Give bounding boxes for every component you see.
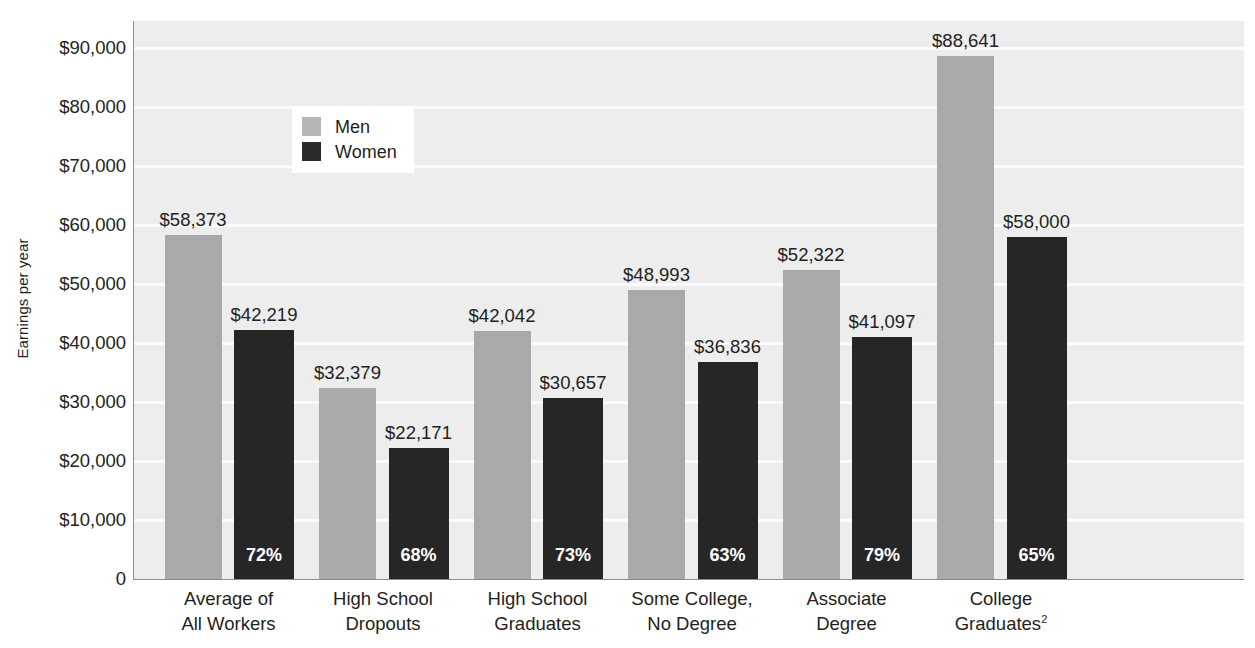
bar-percent-women-0: 72% (246, 546, 282, 564)
legend-swatch-men-icon (302, 117, 321, 136)
gridline-60000 (134, 224, 1244, 227)
gridline-90000 (134, 47, 1244, 50)
gridline-20000 (134, 460, 1244, 463)
gridline-30000 (134, 401, 1244, 404)
x-axis-label-footnote-5: 2 (1041, 613, 1047, 625)
bar-value-women-4: $41,097 (849, 313, 916, 332)
bar-percent-women-5: 65% (1018, 546, 1054, 564)
bar-women-5[interactable] (1007, 237, 1067, 579)
bar-percent-women-1: 68% (400, 546, 436, 564)
y-axis-tick-10000: $10,000 (0, 511, 126, 530)
legend-swatch-women-icon (302, 142, 321, 161)
bar-percent-women-2: 73% (555, 546, 591, 564)
bar-men-0[interactable] (165, 235, 222, 579)
bar-value-men-5: $88,641 (932, 32, 999, 51)
legend: Men Women (292, 106, 414, 173)
x-axis-label-line2-5: Graduates2 (886, 611, 1116, 636)
x-axis-category-labels: Average ofAll WorkersHigh SchoolDropouts… (0, 586, 1255, 648)
bar-men-5[interactable] (937, 56, 994, 579)
earnings-by-education-bar-chart: Earnings per year $90,000$80,000$70,000$… (0, 0, 1255, 648)
bar-value-women-2: $30,657 (540, 374, 607, 393)
bar-value-women-1: $22,171 (385, 424, 452, 443)
bar-value-men-3: $48,993 (623, 266, 690, 285)
y-axis-tick-90000: $90,000 (0, 39, 126, 58)
legend-item-men: Men (302, 114, 406, 139)
bar-percent-women-4: 79% (864, 546, 900, 564)
x-axis-label-5: CollegeGraduates2 (886, 586, 1116, 636)
bar-women-0[interactable] (234, 330, 294, 579)
gridline-40000 (134, 342, 1244, 345)
bar-value-women-5: $58,000 (1003, 213, 1070, 232)
y-axis-tick-60000: $60,000 (0, 216, 126, 235)
legend-label-men: Men (335, 118, 370, 136)
bar-percent-women-3: 63% (709, 546, 745, 564)
bar-value-men-2: $42,042 (469, 307, 536, 326)
bar-value-men-4: $52,322 (778, 246, 845, 265)
bar-value-men-1: $32,379 (314, 364, 381, 383)
y-axis-tick-20000: $20,000 (0, 452, 126, 471)
legend-label-women: Women (335, 143, 397, 161)
bar-value-women-3: $36,836 (694, 338, 761, 357)
y-axis-tick-80000: $80,000 (0, 98, 126, 117)
y-axis-tick-labels: $90,000$80,000$70,000$60,000$50,000$40,0… (0, 0, 126, 648)
y-axis-tick-40000: $40,000 (0, 334, 126, 353)
bar-men-2[interactable] (474, 331, 531, 579)
bar-value-men-0: $58,373 (160, 211, 227, 230)
gridline-10000 (134, 519, 1244, 522)
legend-item-women: Women (302, 139, 406, 164)
bar-value-women-0: $42,219 (231, 306, 298, 325)
bar-men-4[interactable] (783, 270, 840, 579)
y-axis-tick-70000: $70,000 (0, 157, 126, 176)
bar-women-4[interactable] (852, 337, 912, 579)
y-axis-tick-50000: $50,000 (0, 275, 126, 294)
y-axis-tick-30000: $30,000 (0, 393, 126, 412)
x-axis-label-line1-5: College (886, 586, 1116, 611)
plot-area: $58,373$42,21972%$32,379$22,17168%$42,04… (134, 21, 1244, 579)
bar-men-1[interactable] (319, 388, 376, 579)
bar-men-3[interactable] (628, 290, 685, 579)
